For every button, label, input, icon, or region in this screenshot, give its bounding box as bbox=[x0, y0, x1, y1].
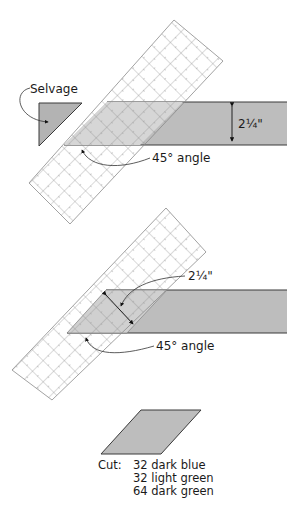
selvage-label: Selvage bbox=[30, 82, 78, 96]
width-label-2: 2¼" bbox=[188, 269, 213, 283]
step1-group: 2¼" Selvage 45° angle bbox=[20, 20, 287, 224]
diagram-canvas: 2¼" Selvage 45° angle 2¼" 45° angle bbox=[0, 0, 296, 506]
step2-group: 2¼" 45° angle bbox=[12, 208, 287, 400]
cut-prefix: Cut: bbox=[98, 459, 133, 472]
cut-instructions: Cut:32 dark blue 32 light green 64 dark … bbox=[98, 459, 214, 498]
width-label-1: 2¼" bbox=[238, 117, 263, 131]
angle-label-2: 45° angle bbox=[156, 339, 214, 353]
diamond-piece bbox=[101, 410, 201, 454]
cut-line-3: 64 dark green bbox=[133, 485, 214, 498]
angle-label-1: 45° angle bbox=[152, 151, 210, 165]
